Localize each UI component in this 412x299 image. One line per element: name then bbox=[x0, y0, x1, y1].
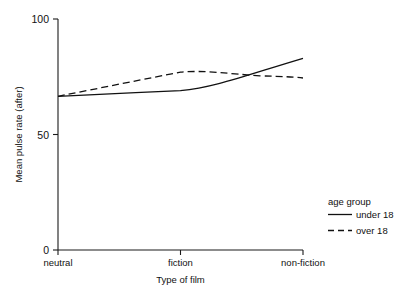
y-tick-label-0: 0 bbox=[43, 244, 49, 256]
series-line-under-18 bbox=[58, 58, 303, 96]
x-category-label-fiction: fiction bbox=[168, 257, 193, 268]
x-category-label-non-fiction: non-fiction bbox=[281, 257, 325, 268]
legend-title: age group bbox=[328, 196, 371, 207]
y-tick-label-50: 50 bbox=[37, 129, 49, 141]
x-axis-title: Type of film bbox=[156, 274, 205, 285]
y-axis-title: Mean pulse rate (after) bbox=[13, 86, 24, 182]
y-tick-label-100: 100 bbox=[31, 13, 49, 25]
chart-page: 100 50 0 neutral fiction non-fiction Typ… bbox=[0, 0, 412, 299]
x-category-label-neutral: neutral bbox=[43, 257, 72, 268]
series-line-over-18 bbox=[58, 71, 303, 96]
legend-label-over-18: over 18 bbox=[356, 225, 388, 236]
legend-label-under-18: under 18 bbox=[356, 209, 394, 220]
line-chart: 100 50 0 neutral fiction non-fiction Typ… bbox=[0, 0, 412, 299]
